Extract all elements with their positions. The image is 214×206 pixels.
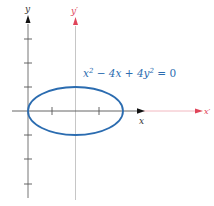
ellipse-diagram: y y′ x x′ x2 − 4x + 4y2 = 0	[0, 0, 214, 206]
equation-label: x2 − 4x + 4y2 = 0	[83, 67, 176, 79]
x-prime-arrow-icon	[195, 109, 203, 114]
x-axis-label: x	[139, 116, 144, 126]
x-prime-axis-label: x′	[204, 107, 211, 116]
y-prime-arrow-icon	[73, 17, 78, 25]
y-axis-label: y	[24, 4, 31, 14]
y-arrow-icon	[26, 15, 31, 23]
y-prime-axis-label: y′	[70, 6, 78, 16]
x-arrow-icon	[137, 108, 145, 113]
